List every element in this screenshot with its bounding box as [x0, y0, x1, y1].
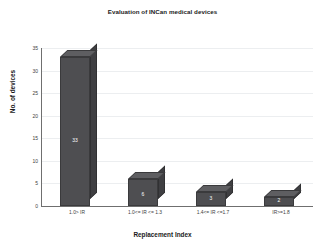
y-tick-label: 30 — [24, 68, 38, 74]
y-tick-label: 20 — [24, 113, 38, 119]
x-axis-tick-labels: 1.0> IR1.0<= IR <= 1.31.4<= IR <=1.7IR>=… — [41, 210, 313, 222]
chart-title: Evaluation of INCan medical devices — [0, 8, 325, 15]
gridline — [41, 48, 313, 49]
bar-value-label: 6 — [128, 191, 158, 197]
x-tick-label: 1.0> IR — [69, 210, 85, 215]
bar[interactable]: 3 — [196, 185, 226, 206]
y-tick-label: 35 — [24, 45, 38, 51]
y-tick-label: 5 — [24, 180, 38, 186]
bar-side-face — [90, 44, 97, 199]
x-axis-title: Replacement Index — [0, 231, 325, 238]
x-axis-line — [41, 206, 313, 207]
y-tick-label: 0 — [24, 203, 38, 209]
bar-value-label: 33 — [60, 137, 90, 143]
y-tick-label: 15 — [24, 135, 38, 141]
y-tick-label: 10 — [24, 158, 38, 164]
bar[interactable]: 2 — [264, 190, 294, 206]
x-tick-label: 1.0<= IR <= 1.3 — [128, 210, 162, 215]
x-tick-label: IR>=1.8 — [272, 210, 289, 215]
bar[interactable]: 6 — [128, 172, 158, 206]
bar-front-face — [60, 57, 90, 206]
x-tick-label: 1.4<= IR <=1.7 — [197, 210, 230, 215]
chart-figure: Evaluation of INCan medical devices No. … — [0, 0, 325, 250]
y-tick-label: 25 — [24, 90, 38, 96]
y-axis-tick-labels: 35302520151050 — [22, 48, 38, 206]
bar-value-label: 3 — [196, 195, 226, 201]
plot-area: 33632 — [41, 48, 313, 206]
bar-value-label: 2 — [264, 197, 294, 203]
y-axis-line — [41, 48, 42, 207]
y-axis-title: No. of devices — [9, 47, 16, 137]
bar[interactable]: 33 — [60, 50, 90, 206]
